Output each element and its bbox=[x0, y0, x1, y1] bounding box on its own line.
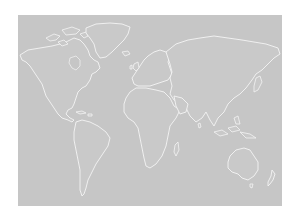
world-map[interactable] bbox=[0, 0, 296, 217]
tasmania bbox=[250, 184, 253, 188]
sri-lanka bbox=[198, 123, 201, 128]
